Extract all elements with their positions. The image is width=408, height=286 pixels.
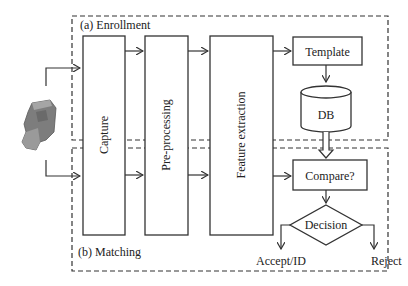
decision-block: Decision xyxy=(290,205,362,245)
reject-label: Reject xyxy=(371,254,402,268)
feature-extraction-label: Feature extraction xyxy=(234,92,248,179)
preprocessing-block: Pre-processing xyxy=(145,36,188,235)
accept-label: Accept/ID xyxy=(256,254,306,268)
db-label: DB xyxy=(318,108,335,122)
capture-label: Capture xyxy=(97,116,111,154)
db-to-compare-arrow xyxy=(319,132,333,158)
template-label: Template xyxy=(305,45,349,59)
decision-label: Decision xyxy=(305,218,348,232)
database-icon: DB xyxy=(301,86,351,132)
compare-block: Compare? xyxy=(293,160,367,190)
biometric-system-diagram: (a) Enrollment (b) Matching Capture Pre-… xyxy=(0,0,408,286)
matching-label: (b) Matching xyxy=(78,245,141,259)
template-block: Template xyxy=(293,37,362,65)
reject-arrow xyxy=(362,225,374,249)
accept-arrow xyxy=(281,225,290,249)
fingerprint-scanner-icon xyxy=(22,100,56,150)
feature-extraction-block: Feature extraction xyxy=(210,36,273,235)
capture-block: Capture xyxy=(83,36,125,235)
compare-label: Compare? xyxy=(305,169,354,183)
preprocessing-label: Pre-processing xyxy=(159,99,173,170)
enrollment-label: (a) Enrollment xyxy=(80,18,151,32)
